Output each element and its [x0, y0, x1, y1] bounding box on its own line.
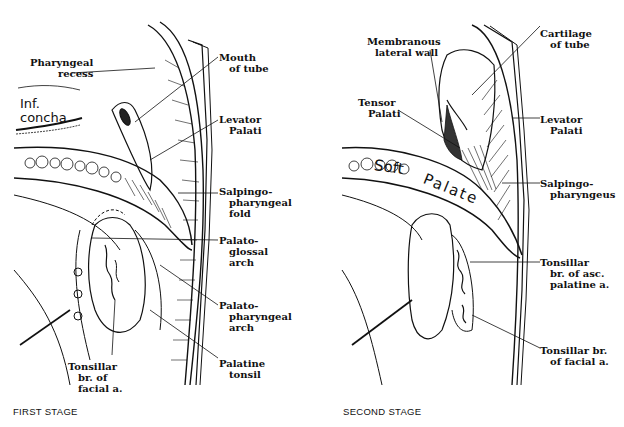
- label-line: recess: [30, 68, 93, 79]
- label-line: Palati: [540, 125, 582, 136]
- label-line: pharyngeus: [540, 189, 615, 200]
- label-line: br. of: [68, 372, 122, 383]
- label-line: pharyngeal: [219, 197, 292, 208]
- label-line: Salpingo-: [219, 186, 292, 197]
- first-stage-panel: Inf. concha Pharyngeal recess Mouth of t…: [0, 0, 312, 427]
- label-line: of facial a.: [540, 356, 609, 367]
- label-palatine-tonsil: Palatine tonsil: [219, 358, 265, 380]
- caption-first-stage: FIRST STAGE: [13, 406, 78, 417]
- label-salpingopharyngeus: Salpingo- pharyngeus: [540, 178, 615, 200]
- label-line: tonsil: [219, 369, 265, 380]
- label-line: Palatine: [219, 358, 265, 369]
- label-line: Palati: [358, 108, 400, 119]
- label-line: Salpingo-: [540, 178, 615, 189]
- label-line: pharyngeal: [219, 311, 292, 322]
- label-line: Tonsillar: [540, 257, 609, 268]
- label-line: palatine a.: [540, 279, 609, 290]
- label-line: br. of asc.: [540, 268, 609, 279]
- label-tensor-palati: Tensor Palati: [358, 97, 400, 119]
- label-line: Palato-: [219, 300, 292, 311]
- inf-concha-annotation: Inf. concha: [20, 97, 67, 125]
- label-line: Cartilage: [540, 28, 592, 39]
- label-line: Pharyngeal: [30, 57, 93, 68]
- label-tonsillar-br-asc-palatine: Tonsillar br. of asc. palatine a.: [540, 257, 609, 290]
- label-line: Levator: [540, 114, 582, 125]
- label-line: Palati: [219, 125, 261, 136]
- label-levator-palati: Levator Palati: [219, 114, 261, 136]
- label-mouth-of-tube: Mouth of tube: [219, 52, 269, 74]
- label-line: Membranous: [367, 36, 441, 47]
- label-line: of tube: [219, 63, 269, 74]
- soft-annotation: Soft: [373, 158, 404, 176]
- label-line: arch: [219, 322, 292, 333]
- label-line: Levator: [219, 114, 261, 125]
- label-line: Mouth: [219, 52, 269, 63]
- label-line: fold: [219, 208, 292, 219]
- label-tonsillar-br-facial: Tonsillar br. of facial a.: [68, 361, 122, 394]
- label-membranous-lateral-wall: Membranous lateral wall: [367, 36, 441, 58]
- label-line: glossal: [219, 246, 268, 257]
- second-stage-panel: Soft Palate Membranous lateral wall Cart…: [312, 0, 624, 427]
- label-pharyngeal-recess: Pharyngeal recess: [30, 57, 93, 79]
- label-tonsillar-br-facial-2: Tonsillar br. of facial a.: [540, 345, 609, 367]
- label-line: Tensor: [358, 97, 400, 108]
- label-line: lateral wall: [367, 47, 441, 58]
- label-cartilage-of-tube: Cartilage of tube: [540, 28, 592, 50]
- label-palatopharyngeal-arch: Palato- pharyngeal arch: [219, 300, 292, 333]
- label-line: Palato-: [219, 235, 268, 246]
- inf-concha-line1: Inf.: [20, 96, 40, 111]
- label-line: arch: [219, 257, 268, 268]
- label-levator-palati-2: Levator Palati: [540, 114, 582, 136]
- caption-second-stage: SECOND STAGE: [343, 406, 421, 417]
- inf-concha-line2: concha: [20, 110, 67, 125]
- label-line: Tonsillar br.: [540, 345, 609, 356]
- label-palatoglossal-arch: Palato- glossal arch: [219, 235, 268, 268]
- label-line: of tube: [540, 39, 592, 50]
- label-line: Tonsillar: [68, 361, 122, 372]
- label-salpingopharyngeal-fold: Salpingo- pharyngeal fold: [219, 186, 292, 219]
- label-line: facial a.: [68, 383, 122, 394]
